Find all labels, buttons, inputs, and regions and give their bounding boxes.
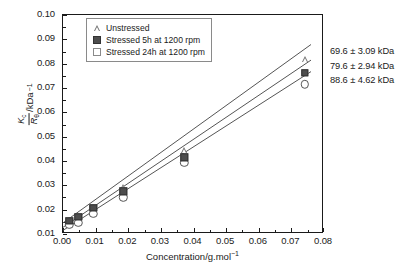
y-tick-major bbox=[63, 234, 67, 235]
y-axis-title: Kc Rθ /kDa−1 bbox=[2, 92, 56, 117]
x-tick-label: 0.06 bbox=[249, 236, 267, 246]
data-point-stressed-5h bbox=[301, 69, 308, 76]
legend-item-stressed-24h: Stressed 24h at 1200 rpm bbox=[91, 46, 205, 58]
y-axis-unit-exponent: −1 bbox=[26, 83, 33, 91]
legend-label: Stressed 24h at 1200 rpm bbox=[106, 47, 205, 57]
x-axis-title: Concentration/g.mol−1 bbox=[62, 250, 323, 262]
legend-label: Unstressed bbox=[106, 23, 149, 33]
annotation-line: 69.6 ± 3.09 kDa bbox=[330, 44, 394, 59]
x-tick-label: 0.04 bbox=[183, 236, 201, 246]
annotation-line: 79.6 ± 2.94 kDa bbox=[330, 59, 394, 74]
x-tick-label: 0.08 bbox=[314, 236, 332, 246]
y-axis-num-sub: c bbox=[21, 114, 28, 117]
open-triangle-icon bbox=[91, 23, 103, 33]
legend-item-unstressed: Unstressed bbox=[91, 22, 205, 34]
data-point-unstressed bbox=[181, 146, 187, 152]
y-axis-unit: /kDa bbox=[24, 92, 35, 112]
x-tick-label: 0.02 bbox=[118, 236, 136, 246]
fit-line-stressed-5h bbox=[63, 60, 311, 227]
fit-line-unstressed bbox=[63, 45, 311, 223]
y-axis-title-fraction: Kc Rθ bbox=[17, 113, 42, 125]
y-axis-num: K bbox=[16, 118, 26, 124]
data-point-stressed-5h bbox=[90, 204, 97, 211]
legend-label: Stressed 5h at 1200 rpm bbox=[106, 35, 200, 45]
x-axis-title-text: Concentration/g.mol bbox=[146, 251, 231, 262]
data-point-unstressed bbox=[302, 55, 308, 61]
x-tick-label: 0.03 bbox=[151, 236, 169, 246]
y-axis-den: R bbox=[29, 118, 39, 125]
annotation-line: 88.6 ± 4.62 kDa bbox=[330, 73, 394, 88]
legend-item-stressed-5h: Stressed 5h at 1200 rpm bbox=[91, 34, 205, 46]
x-tick-label: 0.00 bbox=[53, 236, 71, 246]
data-point-stressed-5h bbox=[181, 154, 188, 161]
data-point-stressed-5h bbox=[65, 217, 72, 224]
y-axis-den-sub: θ bbox=[34, 114, 41, 118]
x-axis-title-exponent: −1 bbox=[231, 250, 239, 257]
data-point-stressed-5h bbox=[120, 188, 127, 195]
x-tick-label: 0.01 bbox=[86, 236, 104, 246]
data-point-stressed-5h bbox=[75, 213, 82, 220]
chart-legend: Unstressed Stressed 5h at 1200 rpm Stres… bbox=[86, 18, 212, 62]
open-square-icon bbox=[91, 47, 103, 57]
debye-plot-figure: 0.01 0.02 0.03 0.04 0.05 0.06 0.07 0.08 … bbox=[0, 0, 415, 278]
x-tick-label: 0.05 bbox=[216, 236, 234, 246]
molecular-weight-annotations: 69.6 ± 3.09 kDa 79.6 ± 2.94 kDa 88.6 ± 4… bbox=[330, 44, 394, 88]
x-tick-label: 0.07 bbox=[281, 236, 299, 246]
filled-square-icon bbox=[91, 35, 103, 45]
data-point-stressed-24h bbox=[301, 80, 309, 88]
